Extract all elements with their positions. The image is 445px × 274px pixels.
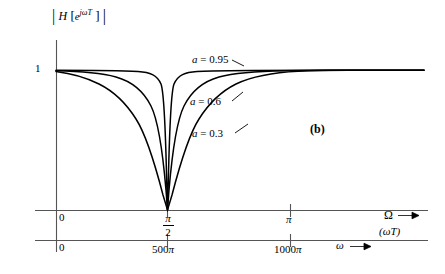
x-axis-tick-label-1000pi: 1000π (274, 244, 302, 255)
plot-title: | H [ejωT ] | (52, 8, 106, 24)
title-bracket-close: ] (95, 8, 99, 23)
x-axis-tick-label-pi-half: π 2 (160, 213, 176, 238)
curve-annotation-value-1: = 0.6 (196, 95, 221, 107)
pi-half-denominator: 2 (160, 226, 176, 238)
figure-panel-b: | H [ejωT ] | 1 0 0 π 2 π 500π 1000π Ω (… (0, 0, 445, 274)
tick-500pi-value: 500 (152, 243, 169, 255)
tick-1000pi-unit: π (296, 243, 302, 255)
title-exponent: jωT (80, 8, 92, 17)
tick-1000pi-value: 1000 (274, 243, 296, 255)
leader-line-a-0-95 (232, 60, 244, 66)
curve-annotation-value-2: = 0.3 (198, 127, 223, 139)
leader-line-a-0-3 (235, 124, 248, 133)
tick-500pi-unit: π (169, 243, 175, 255)
title-left-bar: | (52, 7, 55, 24)
x-axis-omega-capital-name: Ω (384, 209, 393, 221)
curve-annotation-a-0-3: a = 0.3 (192, 128, 223, 139)
x-axis-omega-lower-name: ω (336, 240, 344, 251)
omega-lower-arrow-icon (350, 243, 371, 250)
y-axis-tick-label-one: 1 (35, 63, 41, 74)
x-axis-omega-lower-origin-label: 0 (59, 242, 65, 253)
omega-capital-arrow-icon (398, 212, 419, 219)
x-axis-omega-capital-origin-label: 0 (59, 212, 65, 223)
x-axis-omega-capital-subname: (ωT) (379, 226, 400, 237)
curve-annotation-value-0: = 0.95 (198, 53, 229, 65)
curve-a-0-3 (56, 70, 424, 210)
curve-annotation-a-0-95: a = 0.95 (192, 54, 228, 65)
pi-half-numerator: π (160, 213, 176, 225)
curve-annotation-a-0-6: a = 0.6 (190, 96, 221, 107)
title-h-symbol: H (58, 9, 67, 23)
title-right-bar: | (103, 7, 106, 24)
x-axis-tick-label-500pi: 500π (152, 244, 174, 255)
panel-tag-label: (b) (310, 123, 325, 135)
x-axis-tick-label-pi: π (286, 214, 292, 225)
leader-line-a-0-6 (232, 92, 243, 101)
